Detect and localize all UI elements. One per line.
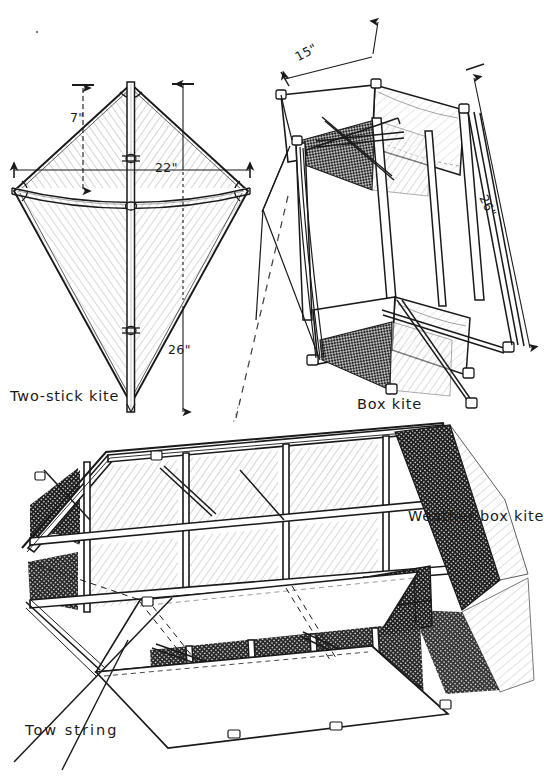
caption-weather-box-kite: Weather box kite — [408, 508, 544, 524]
stray-ink-speck — [36, 31, 38, 33]
caption-box-kite: Box kite — [357, 396, 422, 412]
dimension-26-inch-two-stick: 26" — [168, 342, 191, 357]
tow-line-dashed — [233, 196, 288, 424]
two-stick-kite-drawing — [12, 82, 250, 412]
weather-box-kite-drawing — [14, 423, 534, 770]
dimension-22-inch: 22" — [155, 160, 178, 175]
annotation-tow-string: Tow string — [25, 722, 118, 738]
caption-two-stick-kite: Two-stick kite — [10, 388, 119, 404]
dimension-7-inch: 7" — [70, 110, 85, 125]
